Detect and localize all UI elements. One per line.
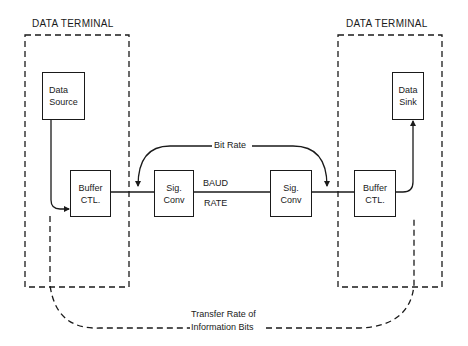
right-buffer-ctl-box: Buffer CTL. (354, 170, 396, 217)
transfer-rate-label-line2: Information Bits (191, 322, 254, 333)
right-sigconv-line2: Conv (280, 194, 301, 206)
right-terminal-title: DATA TERMINAL (346, 18, 428, 29)
baud-label: BAUD (203, 178, 228, 189)
source-to-buffer-arrow (51, 119, 69, 209)
right-sig-conv-box: Sig. Conv (270, 170, 312, 217)
data-sink-line1: Data (398, 84, 417, 96)
transfer-rate-curve-right (266, 216, 414, 328)
data-source-line1: Data (43, 84, 68, 96)
rate-label: RATE (204, 198, 227, 209)
left-buffer-ctl-box: Buffer CTL. (70, 170, 111, 217)
transfer-rate-label-line1: Transfer Rate of (191, 309, 256, 320)
left-sigconv-line2: Conv (163, 194, 184, 206)
buffer-to-sink-arrow (396, 121, 413, 192)
data-sink-line2: Sink (399, 96, 417, 108)
left-buffer-line2: CTL. (81, 194, 101, 206)
left-terminal-title: DATA TERMINAL (32, 18, 114, 29)
right-terminal-boundary (338, 35, 442, 287)
left-buffer-line1: Buffer (79, 182, 103, 194)
right-buffer-line2: CTL. (365, 194, 385, 206)
transfer-rate-curve (50, 216, 190, 328)
right-buffer-line1: Buffer (363, 182, 387, 194)
right-sigconv-line1: Sig. (283, 182, 299, 194)
left-sigconv-line1: Sig. (166, 182, 182, 194)
data-source-box: Data Source (42, 72, 85, 120)
data-source-line2: Source (49, 96, 78, 108)
data-sink-box: Data Sink (392, 72, 424, 120)
left-sig-conv-box: Sig. Conv (154, 170, 194, 217)
bit-rate-label: Bit Rate (214, 140, 246, 151)
